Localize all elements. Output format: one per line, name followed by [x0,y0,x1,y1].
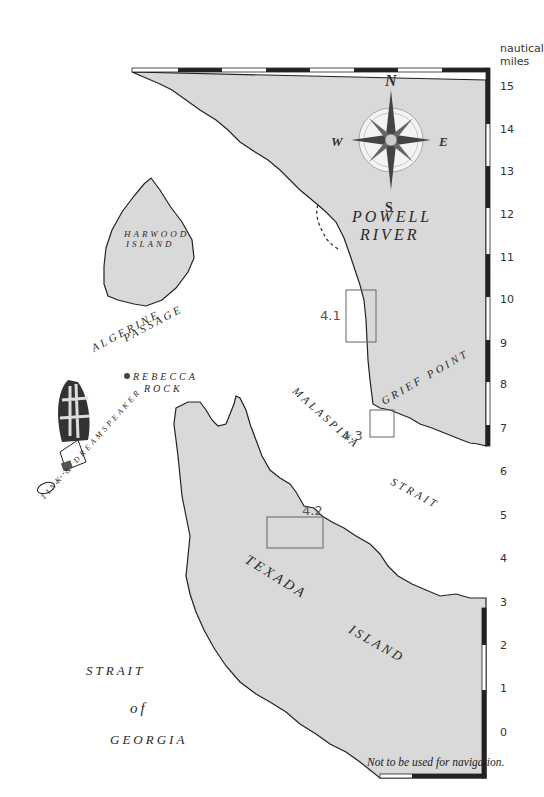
navigation-disclaimer: Not to be used for navigation. [367,756,504,768]
scale-bar-top [132,68,486,72]
svg-text:1: 1 [500,682,507,695]
label-strait-of-georgia: STRAIT [86,663,145,678]
svg-text:14: 14 [500,123,514,136]
svg-text:7: 7 [500,422,507,435]
svg-text:15: 15 [500,80,514,93]
scale-unit-label: nautical miles [500,42,544,68]
label-harwood-island: HARWOOD [123,229,189,239]
label-harwood-island-2: ISLAND [125,239,175,249]
label-boat-name: TINK & DREAMSPEAKER [39,387,143,501]
svg-text:4.1: 4.1 [320,308,341,323]
svg-text:10: 10 [500,293,514,306]
label-strait: STRAIT [389,475,441,510]
label-powell-river-2: RIVER [359,226,419,243]
label-powell-river: POWELL [351,208,432,225]
svg-text:9: 9 [500,337,507,350]
svg-text:E: E [438,134,448,149]
label-rebecca-rock: REBECCA [132,371,198,382]
svg-text:11: 11 [500,251,514,264]
svg-text:12: 12 [500,208,514,221]
svg-text:8: 8 [500,378,507,391]
svg-text:W: W [331,134,344,149]
label-strait-of-georgia-of: of [130,700,148,716]
label-rebecca-rock-2: ROCK [143,383,183,394]
svg-text:N: N [384,72,398,89]
scale-bar-right-upper [486,68,490,446]
svg-text:2: 2 [500,639,507,652]
svg-text:5: 5 [500,509,507,522]
svg-text:3: 3 [500,596,507,609]
svg-text:4.3: 4.3 [342,428,363,443]
scale-numbers: 15 14 13 12 11 10 9 8 7 6 5 4 3 2 1 0 [500,80,514,739]
texada-island [174,396,486,778]
svg-text:6: 6 [500,465,507,478]
inset-4-3[interactable]: 4.3 [342,410,394,443]
svg-text:13: 13 [500,165,514,178]
rebecca-rock-icon [124,373,130,379]
svg-text:4.2: 4.2 [302,503,323,518]
label-strait-of-georgia-2: GEORGIA [110,732,187,747]
svg-text:4: 4 [500,552,507,565]
svg-text:0: 0 [500,726,507,739]
